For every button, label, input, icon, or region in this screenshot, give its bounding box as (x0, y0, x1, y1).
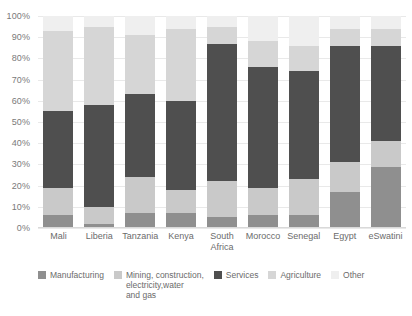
x-axis-label: Morocco (242, 231, 283, 252)
bar-segment (289, 16, 319, 46)
legend-item[interactable]: Manufacturing (38, 270, 104, 280)
bar-column (79, 16, 120, 228)
bar-segment (371, 29, 401, 46)
legend-label: Agriculture (280, 270, 321, 280)
bar-segment (125, 94, 155, 177)
y-axis-tick: 40% (12, 138, 30, 148)
bar-segment (84, 27, 114, 105)
legend-label: Mining, construction, electricity,water … (126, 270, 204, 300)
y-axis-tick: 0% (17, 223, 30, 233)
legend-swatch-icon (114, 271, 122, 279)
x-axis-label: Mali (38, 231, 79, 252)
bar-segment (207, 16, 237, 27)
bar-segment (166, 101, 196, 190)
gridline (38, 228, 406, 229)
y-axis-tick: 90% (12, 32, 30, 42)
legend-swatch-icon (268, 271, 276, 279)
bar-segment (330, 162, 360, 192)
y-axis-tick: 60% (12, 96, 30, 106)
stacked-bar[interactable] (371, 16, 401, 228)
x-axis-label: Tanzania (120, 231, 161, 252)
legend-label: Services (226, 270, 259, 280)
bar-column (324, 16, 365, 228)
bar-segment (371, 141, 401, 166)
bar-segment (166, 213, 196, 228)
bar-segment (125, 35, 155, 94)
bar-column (365, 16, 406, 228)
bar-segment (330, 29, 360, 46)
chart-container: 0%10%20%30%40%50%60%70%80%90%100% MaliLi… (0, 0, 412, 316)
bar-segment (330, 46, 360, 163)
stacked-bar[interactable] (125, 16, 155, 228)
legend-swatch-icon (214, 271, 222, 279)
bar-segment (125, 177, 155, 213)
bar-column (38, 16, 79, 228)
bar-segment (248, 188, 278, 216)
stacked-bar[interactable] (248, 16, 278, 228)
y-axis-tick: 70% (12, 75, 30, 85)
legend-item[interactable]: Mining, construction, electricity,water … (114, 270, 204, 300)
bar-segment (371, 167, 401, 228)
bar-segment (166, 29, 196, 101)
axis-baseline (38, 227, 406, 228)
legend-swatch-icon (331, 271, 339, 279)
legend-label: Other (343, 270, 364, 280)
stacked-bar[interactable] (330, 16, 360, 228)
bar-segment (371, 16, 401, 29)
y-axis-tick: 20% (12, 181, 30, 191)
stacked-bar[interactable] (289, 16, 319, 228)
y-axis: 0%10%20%30%40%50%60%70%80%90%100% (0, 16, 34, 228)
bar-segment (43, 16, 73, 31)
stacked-bar[interactable] (84, 16, 114, 228)
bar-segment (248, 41, 278, 66)
legend-swatch-icon (38, 271, 46, 279)
bar-segment (248, 16, 278, 41)
bar-segment (330, 192, 360, 228)
bar-segment (84, 105, 114, 207)
bar-segment (289, 71, 319, 179)
stacked-bar[interactable] (166, 16, 196, 228)
y-axis-tick: 80% (12, 53, 30, 63)
bar-segment (43, 188, 73, 216)
stacked-bar[interactable] (207, 16, 237, 228)
bar-segment (248, 67, 278, 188)
y-axis-tick: 10% (12, 202, 30, 212)
bar-column (161, 16, 202, 228)
bar-segment (289, 179, 319, 215)
x-axis-label: Kenya (161, 231, 202, 252)
bar-segment (207, 27, 237, 44)
bar-column (242, 16, 283, 228)
legend: ManufacturingMining, construction, elect… (38, 270, 412, 300)
bar-column (202, 16, 243, 228)
bar-group (38, 16, 406, 228)
bar-segment (330, 16, 360, 29)
legend-label: Manufacturing (50, 270, 104, 280)
plot-area (38, 16, 406, 228)
legend-item[interactable]: Services (214, 270, 259, 280)
x-axis-label: Liberia (79, 231, 120, 252)
y-axis-tick: 100% (7, 11, 30, 21)
legend-item[interactable]: Agriculture (268, 270, 321, 280)
y-axis-tick: 50% (12, 117, 30, 127)
bar-segment (166, 190, 196, 213)
bar-segment (207, 181, 237, 217)
bar-segment (125, 213, 155, 228)
bar-segment (289, 46, 319, 71)
x-axis-label: Egypt (324, 231, 365, 252)
x-axis-label: eSwatini (365, 231, 406, 252)
x-axis-label: Senegal (283, 231, 324, 252)
bar-segment (207, 44, 237, 182)
y-axis-tick: 30% (12, 159, 30, 169)
bar-segment (166, 16, 196, 29)
bar-column (283, 16, 324, 228)
stacked-bar[interactable] (43, 16, 73, 228)
bar-segment (371, 46, 401, 141)
x-axis-label: South Africa (202, 231, 243, 252)
x-axis: MaliLiberiaTanzaniaKenyaSouth AfricaMoro… (38, 231, 406, 252)
bar-segment (84, 16, 114, 27)
legend-item[interactable]: Other (331, 270, 364, 280)
bar-segment (125, 16, 155, 35)
bar-column (120, 16, 161, 228)
bar-segment (84, 207, 114, 224)
bar-segment (43, 31, 73, 112)
